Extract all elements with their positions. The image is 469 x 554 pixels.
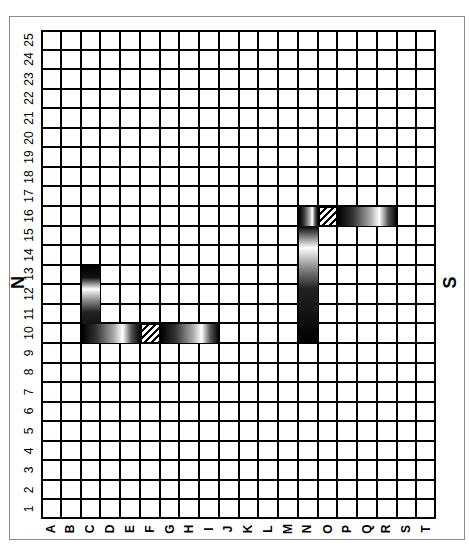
grid-hline [41, 381, 436, 383]
row-label: 19 [19, 147, 39, 167]
grid-vline [218, 30, 220, 519]
row-label: 18 [19, 167, 39, 187]
column-label: B [61, 521, 81, 537]
row-label: 17 [19, 186, 39, 206]
grid-hline [41, 479, 436, 481]
grid-vline [415, 30, 417, 519]
column-label: R [377, 521, 397, 537]
row-label: 20 [19, 128, 39, 148]
grid-vline [336, 30, 338, 519]
row-label: 5 [19, 421, 39, 441]
grid-hline [41, 49, 436, 51]
grid-vline [178, 30, 180, 519]
row-label: 2 [19, 480, 39, 500]
grid-vline [159, 30, 161, 519]
column-label: F [140, 521, 160, 537]
column-label: G [160, 521, 180, 537]
row-label: 22 [19, 89, 39, 109]
column-label: M [278, 521, 298, 537]
grid-hline [41, 146, 436, 148]
column-label: O [318, 521, 338, 537]
grid-hline [41, 264, 436, 266]
column-label: E [120, 521, 140, 537]
row-label: 4 [19, 441, 39, 461]
grid-hline [41, 68, 436, 70]
row-label: 10 [19, 323, 39, 343]
row-label: 11 [19, 304, 39, 324]
north-label: N [12, 272, 25, 293]
column-label: C [81, 521, 101, 537]
column-label: I [199, 521, 219, 537]
grid-hline [41, 420, 436, 422]
row-label: 16 [19, 206, 39, 226]
segment-row10-horizontal-left [82, 324, 140, 343]
grid-vline [198, 30, 200, 519]
column-label: S [397, 521, 417, 537]
row-label: 8 [19, 363, 39, 383]
grid-hline [41, 362, 436, 364]
row-label: 15 [19, 226, 39, 246]
row-label: 21 [19, 108, 39, 128]
hatched-cell [141, 324, 160, 343]
column-label: Q [357, 521, 377, 537]
row-label: 23 [19, 69, 39, 89]
hatched-cell [319, 207, 338, 226]
grid-hline [41, 498, 436, 500]
row-label: 1 [19, 499, 39, 519]
grid-hline [41, 303, 436, 305]
column-label: L [258, 521, 278, 537]
segment-row16-horizontal-left [299, 207, 318, 226]
grid-vline [119, 30, 121, 519]
grid-vline [257, 30, 259, 519]
grid-vline [139, 30, 141, 519]
segment-row16-horizontal-right [338, 207, 396, 226]
column-label: N [298, 521, 318, 537]
column-label: J [219, 521, 239, 537]
grid-hline [41, 283, 436, 285]
grid-vline [396, 30, 398, 519]
row-label: 9 [19, 343, 39, 363]
row-label: 24 [19, 50, 39, 70]
grid-vline [60, 30, 62, 519]
column-label: H [179, 521, 199, 537]
column-label: A [41, 521, 61, 537]
column-label: D [100, 521, 120, 537]
grid-hline [41, 127, 436, 129]
grid-hline [41, 459, 436, 461]
grid-hline [41, 107, 436, 109]
row-label: 25 [19, 30, 39, 50]
grid-hline [41, 401, 436, 403]
column-label: P [337, 521, 357, 537]
row-label: 7 [19, 382, 39, 402]
row-label: 14 [19, 245, 39, 265]
grid-hline [41, 166, 436, 168]
grid-vline [277, 30, 279, 519]
grid-hline [41, 185, 436, 187]
column-label: T [416, 521, 436, 537]
grid-hline [41, 88, 436, 90]
segment-n-vertical [299, 207, 318, 343]
south-label: S [444, 272, 456, 293]
grid-hline [41, 440, 436, 442]
grid-vline [238, 30, 240, 519]
row-label: 6 [19, 402, 39, 422]
segment-row10-horizontal-right [161, 324, 219, 343]
column-label: K [239, 521, 259, 537]
row-label: 3 [19, 460, 39, 480]
grid-vline [376, 30, 378, 519]
grid-vline [356, 30, 358, 519]
grid-hline [41, 244, 436, 246]
